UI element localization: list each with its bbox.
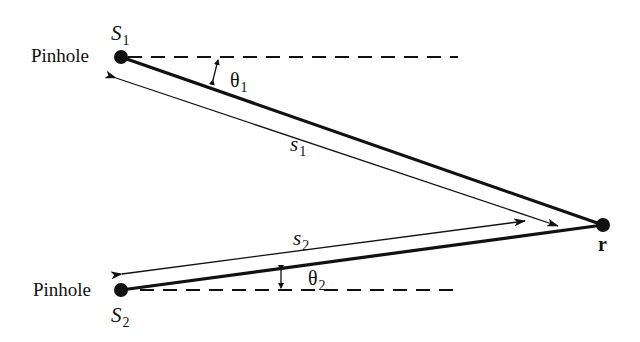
source-label-s2-sub: 2 — [123, 315, 130, 330]
source-label-s1-main: S — [111, 21, 122, 45]
ray-s2-to-r — [121, 225, 603, 290]
source-label-s1: S1 — [111, 23, 130, 44]
pinhole-label-top: Pinhole — [31, 46, 89, 65]
source-label-s2: S2 — [111, 305, 130, 326]
observation-point-r-dot — [596, 218, 610, 232]
distance-arrow-s2 — [122, 221, 525, 274]
path-label-s2-sub: 2 — [302, 238, 309, 253]
distance-arrow-s1 — [116, 78, 558, 226]
angle-label-theta1-main: θ — [230, 69, 240, 91]
path-label-s1-sub: 1 — [299, 144, 306, 159]
source-label-s1-sub: 1 — [123, 33, 130, 48]
pinhole-label-bottom: Pinhole — [33, 280, 91, 299]
point-label-r: r — [598, 234, 607, 254]
diagram-canvas: Pinhole Pinhole S1 S2 θ1 θ2 s1 s2 r — [0, 0, 640, 342]
angle-label-theta2: θ2 — [308, 268, 326, 288]
angle-label-theta1-sub: 1 — [241, 80, 248, 95]
path-label-s1: s1 — [290, 134, 306, 155]
path-label-s2-main: s — [293, 226, 301, 250]
angle-indicator-1 — [213, 60, 218, 80]
angle-label-theta2-sub: 2 — [319, 278, 326, 293]
angle-label-theta2-main: θ — [308, 267, 318, 289]
pinhole-s2-dot — [114, 283, 128, 297]
path-label-s2: s2 — [293, 228, 309, 249]
path-label-s1-main: s — [290, 132, 298, 156]
ray-s1-to-r — [121, 57, 603, 225]
pinhole-s1-dot — [114, 50, 128, 64]
source-label-s2-main: S — [111, 303, 122, 327]
angle-label-theta1: θ1 — [230, 70, 248, 90]
